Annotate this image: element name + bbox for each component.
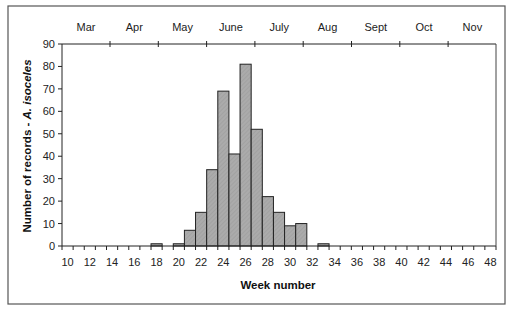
bar-week-31 [296,224,307,246]
x-tick-label: 12 [84,256,96,268]
bar-week-21 [184,230,195,246]
x-tick-label: 26 [239,256,251,268]
bar-week-28 [262,197,273,246]
month-label-nov: Nov [463,21,483,33]
bar-week-26 [240,64,251,246]
y-tick-label: 80 [43,60,55,72]
x-tick-label: 40 [395,256,407,268]
y-tick-label: 20 [43,195,55,207]
bar-week-30 [285,226,296,246]
x-tick-label: 14 [106,256,118,268]
bar-week-22 [196,212,207,246]
month-label-may: May [172,21,193,33]
month-label-sept: Sept [364,21,387,33]
bar-week-23 [207,170,218,246]
month-label-apr: Apr [126,21,143,33]
x-tick-label: 30 [284,256,296,268]
x-tick-label: 22 [195,256,207,268]
month-label-mar: Mar [77,21,96,33]
y-tick-label: 10 [43,218,55,230]
x-tick-label: 28 [262,256,274,268]
y-tick-label: 60 [43,105,55,117]
month-label-june: June [219,21,243,33]
x-tick-label: 46 [462,256,474,268]
bar-week-27 [251,129,262,246]
x-tick-label: 32 [306,256,318,268]
y-tick-label: 90 [43,38,55,50]
month-label-july: July [269,21,289,33]
x-tick-label: 38 [373,256,385,268]
x-tick-label: 48 [484,256,496,268]
x-tick-label: 20 [173,256,185,268]
y-tick-label: 0 [49,240,55,252]
x-axis-title: Week number [240,279,316,291]
month-label-oct: Oct [416,21,433,33]
y-tick-label: 30 [43,173,55,185]
y-tick-label: 50 [43,128,55,140]
y-tick-label: 70 [43,83,55,95]
y-tick-label: 40 [43,150,55,162]
y-axis-title-species: A. isoceles [21,59,33,120]
x-tick-label: 24 [217,256,229,268]
x-tick-label: 34 [329,256,341,268]
x-tick-label: 10 [61,256,73,268]
x-tick-label: 42 [418,256,430,268]
bar-week-29 [273,212,284,246]
bar-chart: 0102030405060708090101214161820222426283… [0,0,512,318]
x-tick-label: 16 [128,256,140,268]
bar-week-24 [218,91,229,246]
month-label-aug: Aug [318,21,338,33]
x-tick-label: 18 [150,256,162,268]
y-axis-title-text: Number of records - [21,119,33,232]
x-tick-label: 36 [351,256,363,268]
svg-text:Number of records - A. isocele: Number of records - A. isoceles [21,59,33,232]
x-tick-label: 44 [440,256,452,268]
y-axis-title: Number of records - A. isoceles [21,59,33,232]
bar-week-25 [229,154,240,246]
